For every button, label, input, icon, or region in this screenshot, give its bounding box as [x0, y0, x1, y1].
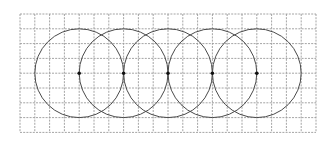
center-point-1	[77, 71, 81, 75]
center-point-4	[211, 71, 215, 75]
center-point-5	[255, 71, 259, 75]
circles-on-grid-figure	[0, 0, 325, 148]
center-point-3	[166, 71, 170, 75]
center-point-2	[122, 71, 126, 75]
